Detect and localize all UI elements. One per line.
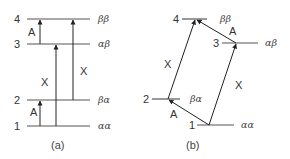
- caption-a: (a): [51, 139, 64, 151]
- level-2-number: 2: [14, 94, 20, 106]
- level-2-state: βα: [189, 93, 202, 104]
- caption-b: (b): [186, 139, 199, 151]
- level-4-state: ββ: [219, 13, 231, 24]
- level-4-state: ββ: [97, 13, 109, 24]
- transition-x-1-3-label: X: [41, 76, 49, 88]
- diagram-a: 4 3 2 1 ββ αβ βα αα A X X A (a): [14, 13, 111, 151]
- transition-x-1-3-arrow: [209, 44, 236, 125]
- transition-a-1-2-label: A: [30, 106, 38, 118]
- transition-x-1-3-label: X: [235, 79, 243, 91]
- energy-level-diagrams: 4 3 2 1 ββ αβ βα αα A X X A (a) 4 3 2 1 …: [0, 0, 290, 159]
- transition-a-3-4-label: A: [28, 26, 36, 38]
- transition-x-2-4-label: X: [80, 65, 88, 77]
- diagram-b: 4 3 2 1 ββ αβ βα αα X X A A (b): [143, 13, 277, 151]
- level-3-number: 3: [213, 37, 219, 49]
- transition-a-3-4-label: A: [229, 25, 237, 37]
- level-1-number: 1: [189, 119, 195, 131]
- level-2-number: 2: [143, 93, 149, 105]
- transition-x-2-4-label: X: [164, 58, 172, 70]
- level-3-state: αβ: [265, 37, 277, 48]
- level-3-state: αβ: [98, 38, 110, 49]
- level-4-number: 4: [14, 13, 20, 25]
- level-1-state: αα: [241, 119, 254, 130]
- transition-a-1-2-label: A: [170, 108, 178, 120]
- level-1-state: αα: [98, 120, 111, 131]
- level-4-number: 4: [173, 13, 179, 25]
- level-2-state: βα: [97, 94, 110, 105]
- level-3-number: 3: [14, 38, 20, 50]
- transition-x-2-4-arrow: [168, 20, 195, 99]
- level-1-number: 1: [14, 120, 20, 132]
